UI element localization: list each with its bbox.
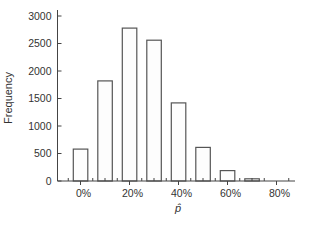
histogram-bar	[73, 149, 88, 181]
histogram-bar	[220, 171, 235, 181]
y-tick-label: 2500	[28, 37, 52, 49]
y-axis-title: Frequency	[2, 72, 14, 124]
histogram-bar	[98, 81, 113, 181]
y-tick-label: 1000	[28, 120, 52, 132]
x-tick-label: 40%	[171, 187, 192, 199]
x-tick-label: 0%	[76, 187, 91, 199]
x-tick-label: 20%	[122, 187, 143, 199]
histogram-bar	[147, 40, 162, 181]
y-tick-label: 0	[46, 175, 52, 187]
histogram-bar	[196, 147, 211, 181]
y-tick-label: 500	[34, 147, 52, 159]
x-axis-title: p̂	[174, 202, 181, 214]
y-tick-label: 1500	[28, 92, 52, 104]
histogram-chart: 050010001500200025003000 0%20%40%60%80% …	[0, 0, 313, 226]
y-tick-label: 2000	[28, 65, 52, 77]
histogram-bar	[122, 28, 137, 181]
x-axis: 0%20%40%60%80%	[58, 178, 296, 199]
y-axis: 050010001500200025003000	[28, 10, 61, 187]
x-tick-label: 60%	[220, 187, 241, 199]
histogram-bar	[171, 103, 186, 181]
x-tick-label: 80%	[269, 187, 290, 199]
bars-group	[73, 28, 259, 181]
y-tick-label: 3000	[28, 10, 52, 22]
